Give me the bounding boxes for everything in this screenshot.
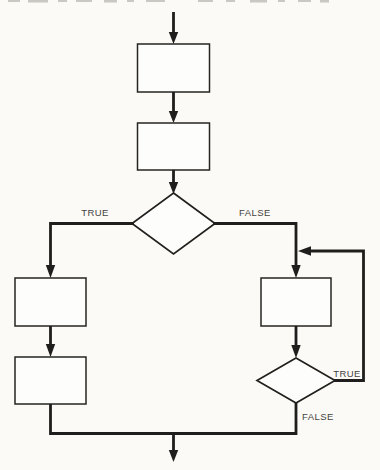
flowchart-diagram: TRUE FALSE [0, 0, 380, 470]
decision-diamond-1 [132, 193, 215, 254]
branch-line [51, 224, 135, 267]
connector-process1-process2 [169, 92, 178, 123]
arrowhead-down-icon [46, 344, 55, 357]
process-box-5 [261, 278, 331, 326]
connector-process3-process4 [46, 326, 55, 357]
arrowhead-down-icon [291, 265, 300, 278]
cropped-caption-fragment [8, 0, 329, 3]
process-box-4 [15, 357, 86, 404]
decision-diamond-2 [257, 358, 335, 403]
process-box-2 [138, 123, 210, 170]
exit-connector [169, 434, 178, 463]
entry-connector [169, 12, 178, 44]
arrowhead-down-icon [46, 265, 55, 278]
scanned-flowchart-page: TRUE FALSE [0, 0, 380, 470]
decision1-true-label: TRUE [81, 207, 109, 218]
merge-path [51, 403, 297, 434]
arrowhead-down-icon [169, 111, 178, 123]
decision2-false-label: FALSE [302, 411, 334, 422]
decision2-true-label: TRUE [333, 368, 361, 379]
connector-process5-decision2 [291, 326, 300, 358]
arrowhead-down-icon [169, 450, 178, 462]
process-box-3 [15, 278, 86, 326]
branch-line [213, 224, 296, 267]
process-box-1 [138, 44, 210, 92]
decision1-false-label: FALSE [239, 207, 271, 218]
true-branch-connector [46, 224, 134, 279]
arrowhead-left-icon [298, 246, 311, 255]
connector-process2-decision1 [169, 170, 178, 194]
arrowhead-down-icon [291, 345, 300, 358]
arrowhead-down-icon [169, 32, 178, 44]
false-branch-connector [213, 224, 301, 279]
